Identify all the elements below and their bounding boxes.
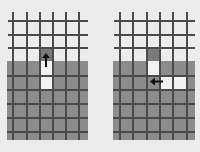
grid-line (114, 34, 195, 36)
dark-cell (146, 48, 159, 61)
grid-line (7, 89, 88, 91)
right-grid-panel (100, 0, 200, 152)
grid-line (113, 117, 195, 119)
empty-cell (146, 61, 159, 75)
grid-line (7, 75, 88, 77)
arrow-up-icon (41, 53, 51, 67)
grid-line (114, 20, 195, 22)
grid-line (113, 131, 195, 133)
grid-line (7, 131, 88, 133)
grid-line (113, 89, 195, 91)
grid-line (8, 47, 88, 49)
grid-line (7, 103, 88, 105)
grid-line (113, 103, 195, 105)
grid-line (114, 47, 195, 49)
arrow-left-icon (150, 77, 163, 86)
empty-cell (172, 75, 186, 89)
grid-line (8, 20, 88, 22)
grid-line (7, 117, 88, 119)
grid-line (8, 34, 88, 36)
left-grid-panel (0, 0, 100, 152)
empty-cell (39, 75, 52, 89)
